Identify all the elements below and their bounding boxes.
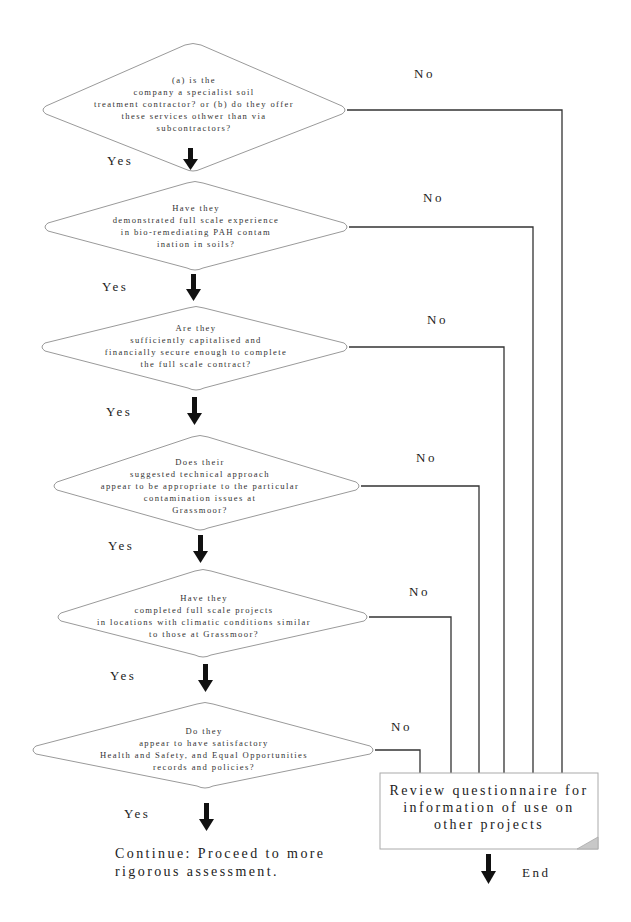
yes-arrow-4	[193, 535, 208, 563]
question-6-text: Do they appear to have satisfactory Heal…	[68, 725, 340, 773]
continue-text: Continue: Proceed to more rigorous asses…	[115, 845, 355, 881]
review-box-text: Review questionnaire for information of …	[380, 782, 598, 833]
question-3-text: Are they sufficiently capitalised and fi…	[62, 322, 330, 370]
no-connector-2	[349, 227, 533, 773]
no-label-6: No	[391, 719, 412, 735]
no-label-5: No	[409, 584, 430, 600]
question-1-text: (a) is the company a specialist soil tre…	[60, 74, 328, 134]
no-label-1: No	[414, 66, 435, 82]
yes-label-6: Yes	[124, 806, 150, 822]
yes-label-2: Yes	[102, 279, 128, 295]
yes-label-4: Yes	[108, 538, 134, 554]
yes-label-1: Yes	[107, 153, 133, 169]
no-label-2: No	[423, 190, 444, 206]
yes-arrow-3	[187, 397, 202, 425]
no-label-3: No	[427, 312, 448, 328]
question-2-text: Have they demonstrated full scale experi…	[62, 202, 330, 250]
question-5-text: Have they completed full scale projects …	[70, 592, 338, 640]
end-label: End	[522, 865, 550, 881]
yes-arrow-6	[199, 803, 214, 831]
yes-arrow-2	[186, 274, 201, 301]
no-connector-6	[375, 750, 420, 773]
no-connector-4	[361, 486, 479, 773]
yes-arrow-5	[198, 664, 213, 692]
end-arrow	[481, 854, 496, 884]
question-4-text: Does their suggested technical approach …	[66, 456, 334, 516]
no-label-4: No	[416, 450, 437, 466]
no-connector-1	[347, 110, 562, 773]
yes-label-3: Yes	[106, 404, 132, 420]
yes-label-5: Yes	[110, 668, 136, 684]
no-connector-3	[349, 347, 504, 773]
